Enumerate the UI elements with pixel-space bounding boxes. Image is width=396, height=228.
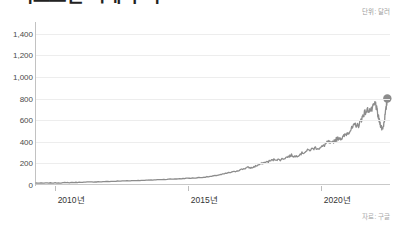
y-axis-tick-label: 1,400 <box>3 29 33 38</box>
x-axis-line <box>36 184 390 185</box>
page-title: 비트코인 시세 추이 <box>16 0 346 9</box>
plot-area <box>36 25 390 185</box>
gridline <box>36 34 390 35</box>
chart-screenshot: 비트코인 시세 추이 단위: 달러 02004006008001,0001,20… <box>0 0 396 228</box>
y-axis-tick-label: 600 <box>3 116 33 125</box>
y-axis-tick-label: 800 <box>3 94 33 103</box>
gridline <box>36 142 390 143</box>
gridline <box>36 163 390 164</box>
x-axis-tick-label: 2010년 <box>58 193 85 205</box>
y-axis-tick-label: 0 <box>3 181 33 190</box>
gridline <box>36 77 390 78</box>
x-axis-tick <box>55 186 56 191</box>
gridline <box>36 99 390 100</box>
y-axis-tick-label: 400 <box>3 137 33 146</box>
source-label: 자료: 구글 <box>362 211 390 221</box>
x-axis-tick <box>188 186 189 191</box>
unit-label: 단위: 달러 <box>362 6 390 16</box>
gridline <box>36 55 390 56</box>
price-line-series <box>36 25 390 185</box>
x-axis-tick <box>321 186 322 191</box>
y-axis-tick-label: 1,200 <box>3 51 33 60</box>
x-axis-tick-label: 2020년 <box>324 193 351 205</box>
gridline <box>36 120 390 121</box>
y-axis-labels: 02004006008001,0001,2001,400 <box>0 0 33 228</box>
y-axis-tick-label: 1,000 <box>3 72 33 81</box>
y-axis-tick-label: 200 <box>3 159 33 168</box>
x-axis-tick-label: 2015년 <box>191 193 218 205</box>
